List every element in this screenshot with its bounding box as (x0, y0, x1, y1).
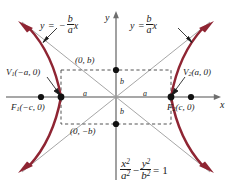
asymptote-left-lhs: y (40, 20, 44, 31)
equation-minus-operator: − (131, 164, 140, 176)
hyperbola-equation: x2a2−y2b2=1 (120, 158, 169, 181)
x-axis-label: x (220, 100, 224, 110)
equation-x-numerator-exponent: 2 (126, 158, 130, 166)
co-vertex-top-label: (0, b) (75, 56, 95, 65)
asymptote-right-variable: x (153, 20, 157, 31)
asymptote-right-lhs: y (130, 20, 134, 31)
vertex-left-label: V1(−a, 0) (6, 68, 40, 77)
vertex-right-label: V2(a, 0) (183, 68, 211, 77)
asymptote-left-denominator: a (67, 25, 74, 35)
equation-y-numerator-exponent: 2 (147, 158, 151, 166)
equation-right-hand-side: 1 (161, 164, 170, 176)
hyperbola-figure: y = −bax y =bax y x (0, b) (0, −b) V1(−a… (0, 0, 235, 187)
equation-y-denominator: b2 (140, 170, 151, 181)
semi-axis-b-top-label: b (120, 78, 124, 86)
equation-x-term: x2a2 (120, 158, 131, 181)
point-co-vertex-top (113, 67, 119, 73)
asymptote-right-denominator: a (146, 25, 153, 35)
focus-right-coords: (c, 0) (176, 102, 195, 112)
vertex-right-coords: (a, 0) (192, 67, 212, 77)
point-focus-right (188, 94, 194, 100)
asymptote-right-equals: = (137, 20, 146, 31)
point-vertex-left (58, 94, 65, 101)
asymptote-right-fraction: ba (146, 14, 153, 35)
asymptote-left-equals: = (47, 20, 56, 31)
asymptote-right-label: y =bax (130, 14, 157, 35)
point-co-vertex-bottom (113, 121, 119, 127)
semi-axis-a-left-label: a (83, 90, 87, 98)
point-vertex-right (168, 94, 175, 101)
co-vertex-bottom-label: (0, −b) (70, 127, 96, 136)
asymptote-left-variable: x (74, 20, 78, 31)
asymptote-left-fraction: ba (67, 14, 74, 35)
equation-equals-operator: = (151, 164, 160, 176)
equation-y-term: y2b2 (140, 158, 151, 181)
focus-left-coords: (−c, 0) (20, 102, 45, 112)
asymptote-left-sign: − (58, 20, 67, 31)
semi-axis-a-right-label: a (143, 90, 147, 98)
y-axis-arrowhead (113, 11, 119, 18)
equation-x-denominator: a2 (120, 170, 131, 181)
vertex-left-coords: (−a, 0) (15, 67, 41, 77)
equation-x-denominator-exponent: 2 (127, 170, 131, 178)
asymptote-left-label: y = −bax (40, 14, 78, 35)
focus-right-label: F2(c, 0) (167, 103, 195, 112)
hyperbola-plot-canvas (0, 0, 235, 187)
y-axis-label: y (105, 13, 109, 23)
equation-y-denominator-exponent: 2 (147, 170, 151, 178)
semi-axis-b-bottom-label: b (120, 108, 124, 116)
focus-left-label: F1(−c, 0) (11, 103, 45, 112)
leader-lines-group (43, 28, 192, 96)
point-focus-left (38, 94, 44, 100)
